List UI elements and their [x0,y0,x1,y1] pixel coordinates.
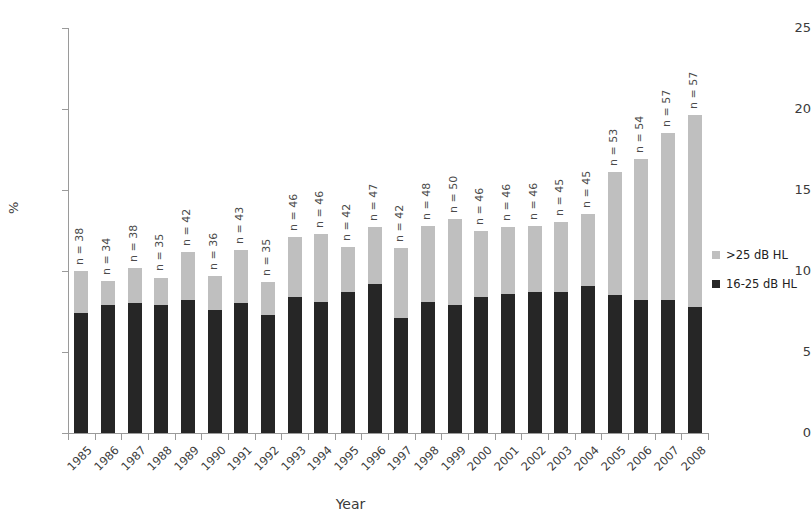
bar-segment-over-25db [208,276,222,310]
bar-annotation-n: n = 34 [100,238,113,275]
bar-annotation-n: n = 46 [473,187,486,224]
x-axis-tick [335,434,336,440]
bar-2007[interactable]: n = 57 [661,133,675,433]
bar-segment-16-25db [154,305,168,433]
legend-item[interactable]: >25 dB HL [712,248,797,262]
bar-annotation-n: n = 43 [233,207,246,244]
y-axis-tick-label: 20 [759,101,811,116]
x-axis-tick [468,434,469,440]
x-axis-tick [708,434,709,440]
legend-item[interactable]: 16-25 dB HL [712,277,797,291]
x-axis-tick [495,434,496,440]
bar-segment-16-25db [181,300,195,433]
x-axis-tick [68,434,69,440]
bar-2002[interactable]: n = 46 [528,226,542,433]
bar-segment-16-25db [128,303,142,433]
bar-2005[interactable]: n = 53 [608,172,622,433]
bar-1986[interactable]: n = 34 [101,281,115,433]
bar-2004[interactable]: n = 45 [581,214,595,433]
bar-segment-over-25db [688,115,702,306]
bar-annotation-n: n = 57 [660,90,673,127]
x-axis-tick [628,434,629,440]
bar-segment-over-25db [554,222,568,292]
bar-annotation-n: n = 46 [500,184,513,221]
bar-annotation-n: n = 38 [127,225,140,262]
bar-segment-16-25db [688,307,702,433]
bar-annotation-n: n = 46 [527,182,540,219]
x-axis-tick [361,434,362,440]
bar-1991[interactable]: n = 43 [234,250,248,433]
bar-1998[interactable]: n = 48 [421,226,435,433]
bar-segment-16-25db [288,297,302,433]
bar-segment-over-25db [181,252,195,301]
bar-1996[interactable]: n = 47 [368,227,382,433]
bar-annotation-n: n = 45 [553,179,566,216]
bar-segment-16-25db [101,305,115,433]
bar-annotation-n: n = 45 [580,171,593,208]
bar-segment-over-25db [474,231,488,297]
bar-annotation-n: n = 54 [633,116,646,153]
bar-annotation-n: n = 42 [340,204,353,241]
bar-segment-over-25db [74,271,88,313]
bar-segment-16-25db [581,286,595,433]
y-axis-tick-label: 25 [759,20,811,35]
bar-segment-over-25db [234,250,248,303]
bar-2001[interactable]: n = 46 [501,227,515,433]
bar-segment-over-25db [128,268,142,304]
bar-segment-over-25db [288,237,302,297]
bar-annotation-n: n = 46 [313,191,326,228]
bar-segment-16-25db [528,292,542,433]
x-axis-tick [148,434,149,440]
bar-segment-16-25db [661,300,675,433]
bar-segment-over-25db [101,281,115,305]
bar-2006[interactable]: n = 54 [634,159,648,433]
bar-1995[interactable]: n = 42 [341,247,355,433]
bar-2000[interactable]: n = 46 [474,231,488,433]
bar-segment-over-25db [368,227,382,284]
bar-annotation-n: n = 42 [393,205,406,242]
bar-1992[interactable]: n = 35 [261,282,275,433]
bar-2003[interactable]: n = 45 [554,222,568,433]
legend-label: >25 dB HL [726,248,788,262]
legend-swatch-icon [712,280,720,288]
x-axis-tick [121,434,122,440]
bar-1989[interactable]: n = 42 [181,252,195,433]
bar-1994[interactable]: n = 46 [314,234,328,433]
bar-segment-over-25db [154,278,168,306]
x-axis-tick [308,434,309,440]
bar-annotation-n: n = 46 [287,194,300,231]
x-axis-tick [441,434,442,440]
bar-annotation-n: n = 35 [153,234,166,271]
x-axis-tick [548,434,549,440]
bar-2008[interactable]: n = 57 [688,115,702,433]
x-axis-tick [655,434,656,440]
bar-segment-16-25db [448,305,462,433]
x-axis-title: Year [0,496,811,512]
x-axis-tick [255,434,256,440]
bar-segment-16-25db [208,310,222,433]
bar-annotation-n: n = 57 [687,72,700,109]
x-axis-tick [681,434,682,440]
x-axis-tick [95,434,96,440]
bar-1988[interactable]: n = 35 [154,278,168,434]
bar-1999[interactable]: n = 50 [448,219,462,433]
x-axis-tick [281,434,282,440]
bar-annotation-n: n = 53 [607,129,620,166]
bar-segment-over-25db [608,172,622,295]
bar-1993[interactable]: n = 46 [288,237,302,433]
bar-annotation-n: n = 42 [180,208,193,245]
bar-annotation-n: n = 38 [73,228,86,265]
bar-segment-over-25db [261,282,275,314]
bar-segment-over-25db [314,234,328,302]
bar-1990[interactable]: n = 36 [208,276,222,433]
bar-1985[interactable]: n = 38 [74,271,88,433]
bar-segment-16-25db [261,315,275,433]
stacked-bar-chart: % 0510152025 n = 38n = 34n = 38n = 35n =… [0,0,811,523]
bar-1987[interactable]: n = 38 [128,268,142,433]
bar-annotation-n: n = 48 [420,182,433,219]
bar-segment-16-25db [74,313,88,433]
bar-segment-16-25db [394,318,408,433]
bar-1997[interactable]: n = 42 [394,248,408,433]
bar-segment-16-25db [554,292,568,433]
y-axis-tick-label: 0 [759,425,811,440]
